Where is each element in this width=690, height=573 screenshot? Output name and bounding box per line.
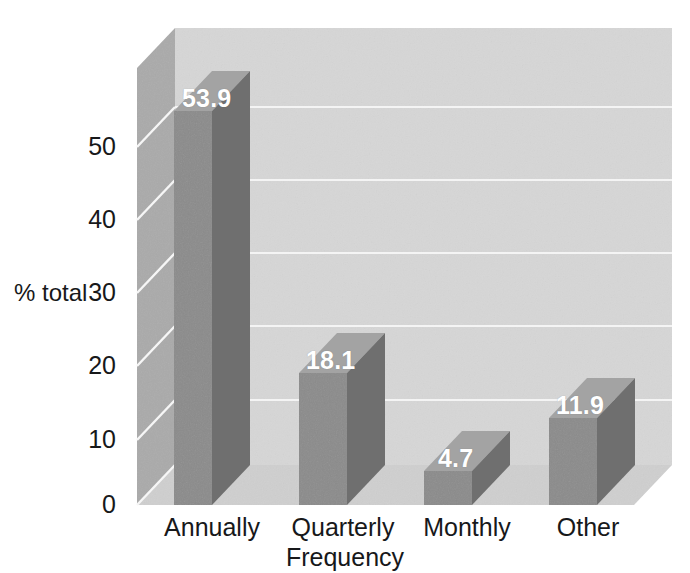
- bar-annually-side: [212, 71, 250, 505]
- bar-quarterly-front: [299, 373, 347, 505]
- x-tick-label-monthly: Monthly: [407, 513, 527, 542]
- bar-chart-figure: 50 40 30 20 10 0 % total Annually Quarte…: [0, 0, 690, 573]
- x-tick-label-quarterly: Quarterly: [283, 513, 403, 542]
- bar-value-label-other: 11.9: [556, 391, 604, 420]
- y-tick-label-10: 10: [56, 425, 116, 454]
- y-tick-label-40: 40: [56, 205, 116, 234]
- y-tick-label-0: 0: [56, 490, 116, 519]
- bar-monthly-front: [424, 471, 472, 505]
- bar-value-label-monthly: 4.7: [438, 444, 473, 473]
- x-tick-label-annually: Annually: [152, 513, 272, 542]
- y-tick-label-20: 20: [56, 351, 116, 380]
- bar-annually[interactable]: [174, 71, 250, 505]
- bar-annually-front: [174, 111, 212, 505]
- y-axis-title: % total: [14, 279, 87, 307]
- bar-value-label-quarterly: 18.1: [306, 346, 355, 375]
- x-tick-label-other: Other: [528, 513, 648, 542]
- bar-other-front: [549, 418, 597, 505]
- bar-value-label-annually: 53.9: [182, 84, 231, 113]
- y-tick-label-50: 50: [56, 132, 116, 161]
- x-axis-title: Frequency: [0, 543, 690, 572]
